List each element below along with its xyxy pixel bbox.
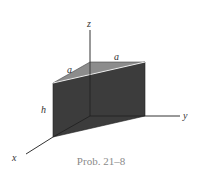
dimension-a-left: a [67, 64, 72, 75]
y-axis-label: y [182, 110, 188, 121]
z-axis-label: z [86, 18, 91, 29]
diagram-canvas: z y x a a h Prob. 21–8 [0, 0, 202, 182]
dimension-a-right: a [114, 51, 119, 62]
figure-caption: Prob. 21–8 [0, 155, 202, 167]
dimension-h: h [41, 104, 46, 115]
x-axis [26, 137, 53, 154]
